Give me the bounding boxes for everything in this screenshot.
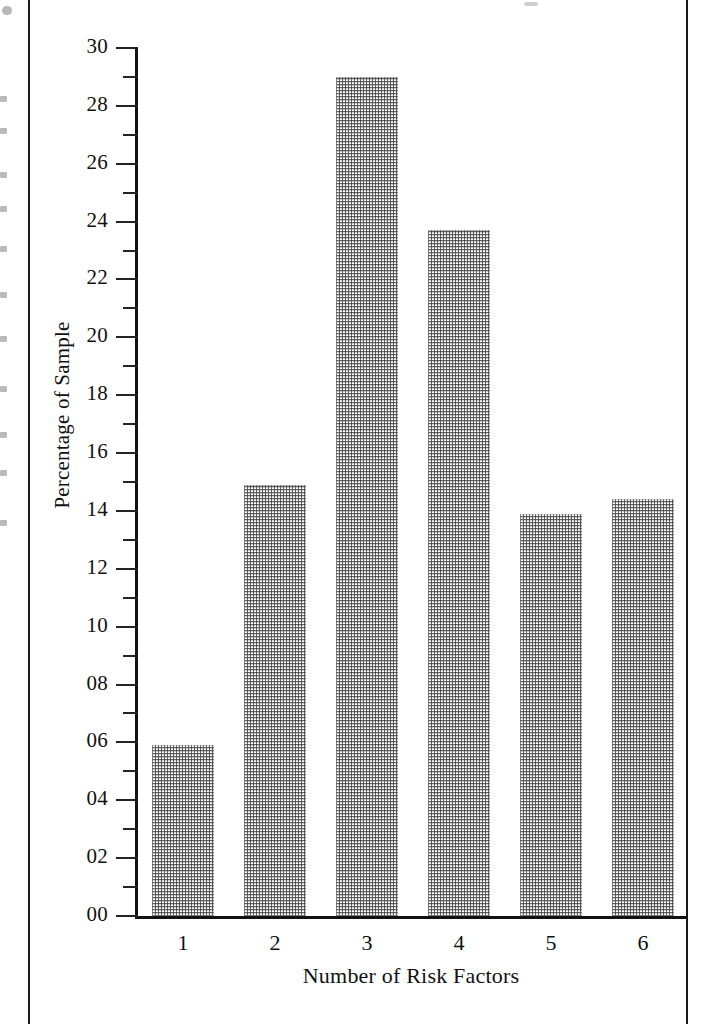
bar (244, 485, 306, 916)
y-tick-label: 04 (86, 788, 108, 809)
x-tick-label: 4 (454, 932, 465, 954)
bar-chart-figure: Percentage of Sample 0002040608101214161… (30, 0, 686, 1024)
bar (152, 745, 214, 916)
y-tick-major: 30 (116, 47, 138, 49)
y-tick-minor (123, 886, 138, 888)
y-tick-label: 14 (86, 499, 108, 520)
y-tick-label: 30 (86, 36, 108, 57)
y-tick-minor (123, 192, 138, 194)
bleed-mark (0, 386, 7, 392)
y-tick-major: 00 (116, 915, 138, 917)
y-tick-major: 12 (116, 568, 138, 570)
y-tick-major: 18 (116, 394, 138, 396)
y-tick-label: 24 (86, 210, 108, 231)
bleed-mark (0, 96, 7, 102)
y-tick-major: 02 (116, 857, 138, 859)
bleed-mark (0, 520, 7, 526)
page-bleed-column (0, 0, 26, 1024)
y-tick-major: 14 (116, 510, 138, 512)
y-tick-minor (123, 307, 138, 309)
bleed-mark (0, 246, 7, 252)
bar (520, 514, 582, 916)
y-tick-minor (123, 76, 138, 78)
y-tick-minor (123, 712, 138, 714)
y-tick-label: 16 (86, 441, 108, 462)
y-tick-major: 20 (116, 336, 138, 338)
bleed-mark (0, 172, 7, 178)
y-tick-minor (123, 134, 138, 136)
y-tick-minor (123, 770, 138, 772)
bar (612, 499, 674, 916)
y-tick-label: 22 (86, 268, 108, 289)
y-tick-major: 26 (116, 163, 138, 165)
y-tick-minor (123, 481, 138, 483)
bleed-mark (0, 432, 7, 438)
y-tick-major: 24 (116, 221, 138, 223)
y-tick-minor (123, 250, 138, 252)
y-tick-label: 20 (86, 325, 108, 346)
bleed-mark (0, 206, 7, 212)
x-axis-title: Number of Risk Factors (135, 964, 687, 988)
y-axis-line (135, 48, 138, 918)
y-tick-major: 04 (116, 799, 138, 801)
y-tick-label: 02 (86, 846, 108, 867)
y-tick-label: 06 (86, 730, 108, 751)
x-tick-label: 6 (638, 932, 649, 954)
y-tick-label: 18 (86, 383, 108, 404)
y-tick-minor (123, 539, 138, 541)
y-tick-label: 00 (86, 904, 108, 925)
y-tick-major: 08 (116, 684, 138, 686)
x-tick-label: 3 (362, 932, 373, 954)
y-tick-minor (123, 597, 138, 599)
bar (428, 230, 490, 916)
bleed-mark (2, 6, 12, 15)
y-tick-minor (123, 365, 138, 367)
bleed-mark (0, 470, 7, 476)
y-tick-minor (123, 828, 138, 830)
plot-area: 00020406081012141618202224262830 123456 (135, 48, 687, 918)
y-tick-label: 08 (86, 673, 108, 694)
bleed-mark (0, 292, 7, 298)
y-tick-major: 10 (116, 626, 138, 628)
y-tick-label: 26 (86, 152, 108, 173)
x-tick-label: 1 (178, 932, 189, 954)
y-tick-minor (123, 655, 138, 657)
y-tick-major: 28 (116, 105, 138, 107)
x-axis-line (135, 916, 687, 919)
y-axis-title: Percentage of Sample (51, 305, 73, 525)
y-tick-label: 28 (86, 94, 108, 115)
bleed-mark (0, 128, 7, 134)
bleed-mark (0, 336, 7, 342)
y-tick-major: 16 (116, 452, 138, 454)
y-tick-label: 12 (86, 557, 108, 578)
y-tick-label: 10 (86, 615, 108, 636)
y-tick-major: 06 (116, 741, 138, 743)
y-tick-major: 22 (116, 278, 138, 280)
x-tick-label: 5 (546, 932, 557, 954)
x-tick-label: 2 (270, 932, 281, 954)
y-tick-minor (123, 423, 138, 425)
bar (336, 77, 398, 916)
